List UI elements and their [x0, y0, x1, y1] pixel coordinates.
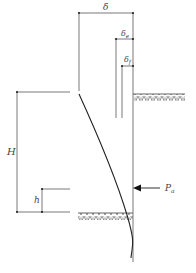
active-force-arrow: Pa [133, 183, 175, 194]
H-label: H [6, 146, 16, 157]
delta-label: δ [103, 2, 108, 12]
backfill-ground [133, 94, 185, 101]
toe-ground [78, 213, 133, 220]
total-deflection-dimension: δ [78, 2, 134, 93]
elastic-deflection-dimension: δe [115, 29, 134, 118]
deflected-wall-curve [79, 94, 133, 258]
wall-deflection-diagram: δ δe δf H [0, 0, 196, 273]
Pa-label: Pa [164, 183, 175, 194]
h-label: h [34, 195, 40, 205]
delta-e-label: δe [121, 29, 130, 39]
delta-f-label: δf [124, 55, 132, 66]
height-h-dimension: h [34, 188, 70, 213]
foundation-deflection-dimension: δf [121, 55, 134, 118]
